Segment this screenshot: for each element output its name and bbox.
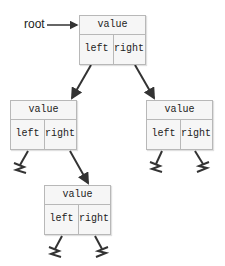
- ground-null-icon: [195, 151, 209, 172]
- node-right-pointer: right: [180, 119, 212, 149]
- ground-null-icon: [14, 151, 28, 173]
- node-left-pointer: left: [80, 34, 114, 64]
- ground-null-icon: [49, 236, 62, 257]
- node-left-pointer: left: [147, 119, 181, 149]
- node-value: value: [11, 101, 76, 120]
- node-left-pointer: left: [11, 119, 45, 149]
- ground-null-icon: [95, 236, 108, 257]
- ground-null-icon: [150, 151, 162, 172]
- node-left-pointer: left: [45, 204, 79, 234]
- node-left-right-grandchild: value left right: [44, 185, 111, 235]
- root-pointer-label: root: [24, 17, 45, 31]
- node-root: value left right: [79, 15, 146, 65]
- node-value: value: [80, 16, 145, 35]
- edge-root-left: [72, 65, 91, 98]
- node-right-pointer: right: [113, 34, 145, 64]
- node-value: value: [45, 186, 110, 205]
- node-right-child: value left right: [146, 100, 213, 150]
- edge-left-right: [70, 151, 88, 183]
- node-value: value: [147, 101, 212, 120]
- node-left-child: value left right: [10, 100, 77, 150]
- node-right-pointer: right: [78, 204, 110, 234]
- edge-root-right: [135, 65, 154, 98]
- node-right-pointer: right: [44, 119, 76, 149]
